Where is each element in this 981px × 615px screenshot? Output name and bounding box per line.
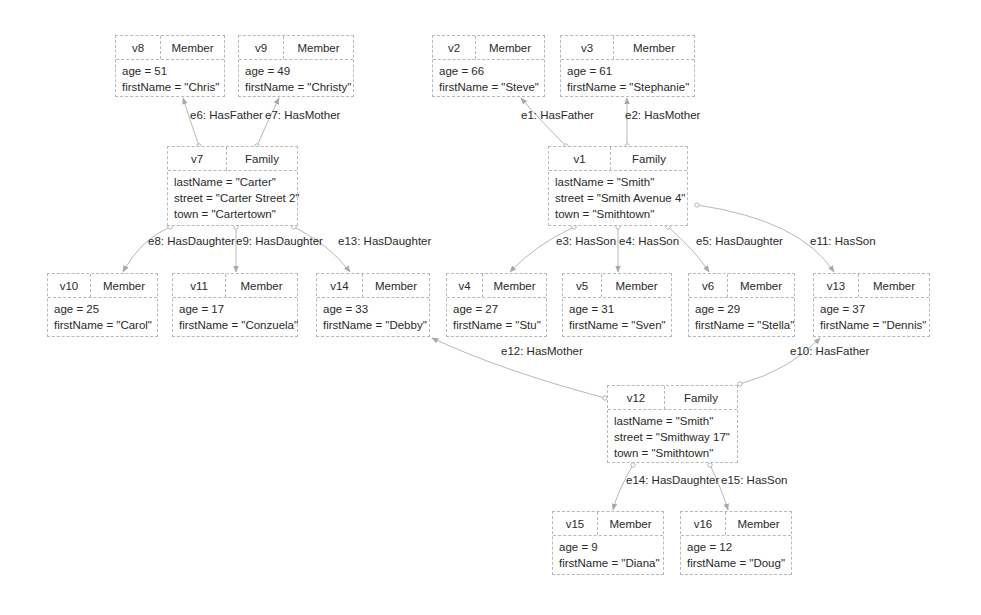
node-properties: age = 25firstName = "Carol" <box>48 298 157 333</box>
edge-label-e2: e2: HasMother <box>625 109 700 121</box>
node-property: firstName = "Christy" <box>245 79 347 95</box>
edge-label-e10: e10: HasFather <box>790 345 869 357</box>
node-property: firstName = "Sven" <box>569 317 665 333</box>
node-property: age = 31 <box>569 301 665 317</box>
node-header: v2Member <box>433 36 544 60</box>
node-type: Family <box>227 147 297 170</box>
node-property: age = 9 <box>559 539 657 555</box>
node-id: v14 <box>317 274 363 297</box>
node-id: v5 <box>563 274 602 297</box>
node-header: v9Member <box>239 36 353 60</box>
node-id: v6 <box>689 274 728 297</box>
node-v3[interactable]: v3Memberage = 61firstName = "Stephanie" <box>560 35 695 97</box>
node-property: firstName = "Dennis" <box>820 317 923 333</box>
node-property: lastName = "Smith" <box>614 413 731 429</box>
node-id: v13 <box>814 274 859 297</box>
node-id: v7 <box>168 147 227 170</box>
node-properties: age = 27firstName = "Stu" <box>447 298 546 333</box>
node-property: lastName = "Carter" <box>174 174 291 190</box>
node-id: v12 <box>608 386 665 409</box>
node-property: age = 25 <box>54 301 151 317</box>
node-properties: age = 17firstName = "Conzuela" <box>173 298 297 333</box>
node-property: age = 29 <box>695 301 788 317</box>
node-id: v15 <box>553 512 598 535</box>
node-id: v16 <box>681 512 726 535</box>
edge-label-e1: e1: HasFather <box>521 109 594 121</box>
node-properties: age = 61firstName = "Stephanie" <box>561 60 694 95</box>
node-id: v11 <box>173 274 226 297</box>
node-v15[interactable]: v15Memberage = 9firstName = "Diana" <box>552 511 664 575</box>
node-property: age = 27 <box>453 301 540 317</box>
node-properties: age = 31firstName = "Sven" <box>563 298 671 333</box>
node-property: age = 66 <box>439 63 538 79</box>
node-v11[interactable]: v11Memberage = 17firstName = "Conzuela" <box>172 273 298 337</box>
edge-e15 <box>710 465 728 510</box>
node-v7[interactable]: v7FamilylastName = "Carter"street = "Car… <box>167 146 298 226</box>
node-type: Family <box>665 386 737 409</box>
node-property: age = 51 <box>122 63 218 79</box>
edge-e8 <box>123 227 170 272</box>
node-id: v4 <box>447 274 483 297</box>
node-v14[interactable]: v14Memberage = 33firstName = "Debby" <box>316 273 430 337</box>
node-type: Member <box>476 36 544 59</box>
node-header: v7Family <box>168 147 297 171</box>
node-properties: age = 37firstName = "Dennis" <box>814 298 929 333</box>
node-v9[interactable]: v9Memberage = 49firstName = "Christy" <box>238 35 354 97</box>
node-header: v3Member <box>561 36 694 60</box>
node-properties: age = 33firstName = "Debby" <box>317 298 429 333</box>
node-type: Member <box>363 274 429 297</box>
node-property: age = 33 <box>323 301 423 317</box>
node-property: firstName = "Stephanie" <box>567 79 688 95</box>
node-v10[interactable]: v10Memberage = 25firstName = "Carol" <box>47 273 158 337</box>
node-property: firstName = "Debby" <box>323 317 423 333</box>
edge-label-e14: e14: HasDaughter <box>626 474 719 486</box>
node-type: Member <box>728 274 794 297</box>
node-type: Member <box>161 36 224 59</box>
node-v2[interactable]: v2Memberage = 66firstName = "Steve" <box>432 35 545 97</box>
node-header: v1Family <box>549 147 687 171</box>
edge-label-e8: e8: HasDaughter <box>148 235 235 247</box>
node-property: firstName = "Diana" <box>559 555 657 571</box>
node-property: age = 37 <box>820 301 923 317</box>
edge-e5 <box>668 227 709 272</box>
node-properties: lastName = "Carter"street = "Carter Stre… <box>168 171 297 222</box>
node-properties: age = 66firstName = "Steve" <box>433 60 544 95</box>
node-type: Member <box>91 274 157 297</box>
node-type: Member <box>284 36 353 59</box>
node-v5[interactable]: v5Memberage = 31firstName = "Sven" <box>562 273 672 337</box>
node-properties: age = 9firstName = "Diana" <box>553 536 663 571</box>
node-properties: age = 12firstName = "Doug" <box>681 536 791 571</box>
node-v1[interactable]: v1FamilylastName = "Smith"street = "Smit… <box>548 146 688 226</box>
node-header: v13Member <box>814 274 929 298</box>
node-property: street = "Smith Avenue 4" <box>555 190 681 206</box>
node-v8[interactable]: v8Memberage = 51firstName = "Chris" <box>115 35 225 97</box>
node-property: lastName = "Smith" <box>555 174 681 190</box>
node-property: street = "Smithway 17" <box>614 429 731 445</box>
edge-e3 <box>510 227 574 272</box>
node-header: v8Member <box>116 36 224 60</box>
node-property: firstName = "Steve" <box>439 79 538 95</box>
node-v13[interactable]: v13Memberage = 37firstName = "Dennis" <box>813 273 930 337</box>
edge-label-e12: e12: HasMother <box>501 345 583 357</box>
node-type: Member <box>598 512 663 535</box>
node-v6[interactable]: v6Memberage = 29firstName = "Stella" <box>688 273 795 337</box>
node-v16[interactable]: v16Memberage = 12firstName = "Doug" <box>680 511 792 575</box>
node-properties: lastName = "Smith"street = "Smith Avenue… <box>549 171 687 222</box>
edge-label-e9: e9: HasDaughter <box>236 235 323 247</box>
edge-label-e11: e11: HasSon <box>810 235 876 247</box>
node-type: Member <box>226 274 297 297</box>
node-property: age = 61 <box>567 63 688 79</box>
node-v4[interactable]: v4Memberage = 27firstName = "Stu" <box>446 273 547 337</box>
node-properties: age = 29firstName = "Stella" <box>689 298 794 333</box>
node-id: v10 <box>48 274 91 297</box>
node-property: town = "Smithtown" <box>614 445 731 461</box>
node-property: street = "Carter Street 2" <box>174 190 291 206</box>
node-header: v14Member <box>317 274 429 298</box>
node-type: Member <box>859 274 929 297</box>
node-type: Member <box>614 36 694 59</box>
edge-e13 <box>294 227 350 272</box>
edge-e1 <box>521 98 566 146</box>
node-type: Member <box>726 512 791 535</box>
node-property: firstName = "Carol" <box>54 317 151 333</box>
node-v12[interactable]: v12FamilylastName = "Smith"street = "Smi… <box>607 385 738 463</box>
